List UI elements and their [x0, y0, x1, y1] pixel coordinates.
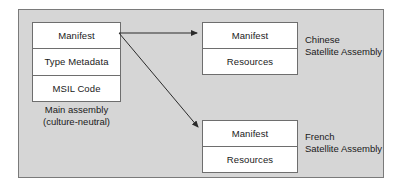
- main-assembly-cell-manifest: Manifest: [33, 23, 120, 48]
- french-satellite-cell-manifest: Manifest: [203, 121, 297, 146]
- assembly-diagram: Manifest Type Metadata MSIL Code Main as…: [0, 0, 404, 189]
- main-assembly-caption-line-1: Main assembly: [32, 104, 121, 116]
- french-satellite-cell-resources: Resources: [203, 146, 297, 172]
- chinese-satellite-box: Manifest Resources: [202, 22, 298, 75]
- main-assembly-box: Manifest Type Metadata MSIL Code: [32, 22, 121, 102]
- chinese-satellite-cell-resources: Resources: [203, 48, 297, 74]
- chinese-satellite-caption-line-1: Chinese: [305, 34, 382, 46]
- main-assembly-cell-msil-code: MSIL Code: [33, 75, 120, 101]
- french-satellite-caption: French Satellite Assembly: [305, 131, 382, 155]
- french-satellite-caption-line-1: French: [305, 131, 382, 143]
- main-assembly-caption: Main assembly (culture-neutral): [32, 104, 121, 128]
- chinese-satellite-caption-line-2: Satellite Assembly: [305, 46, 382, 58]
- main-assembly-cell-type-metadata: Type Metadata: [33, 48, 120, 74]
- figure-frame: Manifest Type Metadata MSIL Code Main as…: [18, 9, 384, 178]
- chinese-satellite-cell-manifest: Manifest: [203, 23, 297, 48]
- french-satellite-caption-line-2: Satellite Assembly: [305, 143, 382, 155]
- chinese-satellite-caption: Chinese Satellite Assembly: [305, 34, 382, 58]
- main-assembly-caption-line-2: (culture-neutral): [32, 116, 121, 128]
- french-satellite-box: Manifest Resources: [202, 120, 298, 173]
